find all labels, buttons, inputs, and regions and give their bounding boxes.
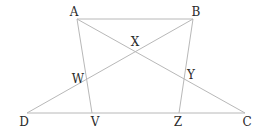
segment-ac — [77, 19, 245, 113]
label-c: C — [242, 115, 251, 129]
label-x: X — [131, 35, 140, 49]
label-y: Y — [186, 68, 196, 82]
label-b: B — [192, 5, 201, 19]
geometry-diagram: A B X W Y D V Z C — [0, 0, 268, 135]
label-a: A — [69, 5, 79, 19]
label-v: V — [90, 115, 100, 129]
segment-av — [77, 19, 92, 113]
label-z: Z — [174, 115, 182, 129]
label-w: W — [72, 72, 85, 86]
point-labels: A B X W Y D V Z C — [19, 5, 251, 129]
segment-bz — [179, 19, 193, 113]
label-d: D — [19, 115, 29, 129]
segment-bd — [27, 19, 193, 113]
segments — [27, 19, 245, 113]
